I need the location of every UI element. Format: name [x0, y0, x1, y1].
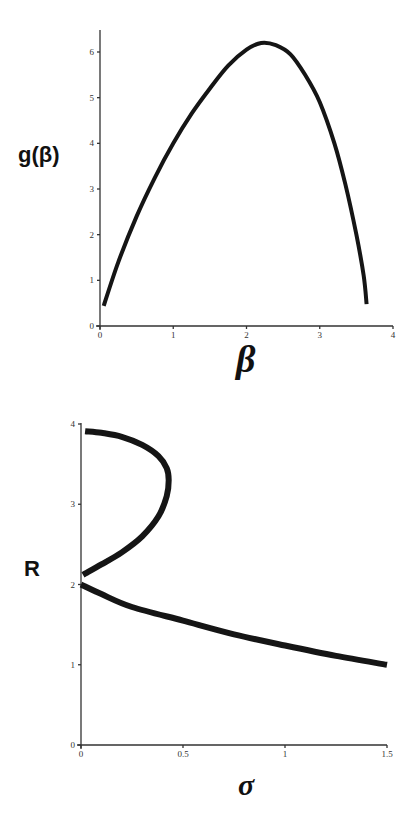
y-tick-label: 3: [71, 499, 76, 509]
top-chart-y-label: g(β): [18, 142, 60, 167]
y-tick-label: 2: [90, 230, 95, 240]
y-tick-label: 4: [71, 419, 76, 429]
chart-r-sigma: 01234 00.511.5 R σ: [24, 419, 393, 801]
figure-canvas: 0123456 01234 g(β) β 01234 00.511.5 R σ: [0, 0, 411, 821]
bottom-chart-y-label: R: [24, 556, 40, 581]
bottom-chart-lower-branch: [81, 585, 387, 665]
bottom-chart-x-label: σ: [238, 768, 255, 801]
x-tick-label: 4: [391, 330, 396, 340]
top-chart-axes: [96, 30, 393, 330]
x-tick-label: 1: [283, 749, 288, 759]
y-tick-label: 2: [71, 580, 76, 590]
y-tick-label: 5: [90, 93, 95, 103]
x-tick-label: 0.5: [177, 749, 189, 759]
y-tick-label: 3: [90, 184, 95, 194]
y-tick-label: 6: [90, 47, 95, 57]
x-tick-label: 1: [171, 330, 176, 340]
y-tick-label: 4: [90, 138, 95, 148]
x-tick-label: 0: [98, 330, 103, 340]
x-tick-label: 3: [318, 330, 323, 340]
x-tick-label: 0: [79, 749, 84, 759]
top-chart-curve: [104, 43, 367, 306]
bottom-chart-axes: [77, 423, 387, 749]
x-tick-label: 1.5: [381, 749, 393, 759]
bottom-chart-x-ticks: 00.511.5: [79, 745, 393, 759]
y-tick-label: 1: [90, 275, 95, 285]
bottom-chart-y-ticks: 01234: [71, 419, 82, 750]
y-tick-label: 0: [90, 321, 95, 331]
y-tick-label: 0: [71, 740, 76, 750]
top-chart-y-ticks: 0123456: [90, 47, 101, 331]
top-chart-x-label: β: [234, 338, 256, 380]
chart-g-beta: 0123456 01234 g(β) β: [18, 30, 396, 380]
bottom-chart-upper-branch: [83, 431, 169, 575]
y-tick-label: 1: [71, 660, 76, 670]
